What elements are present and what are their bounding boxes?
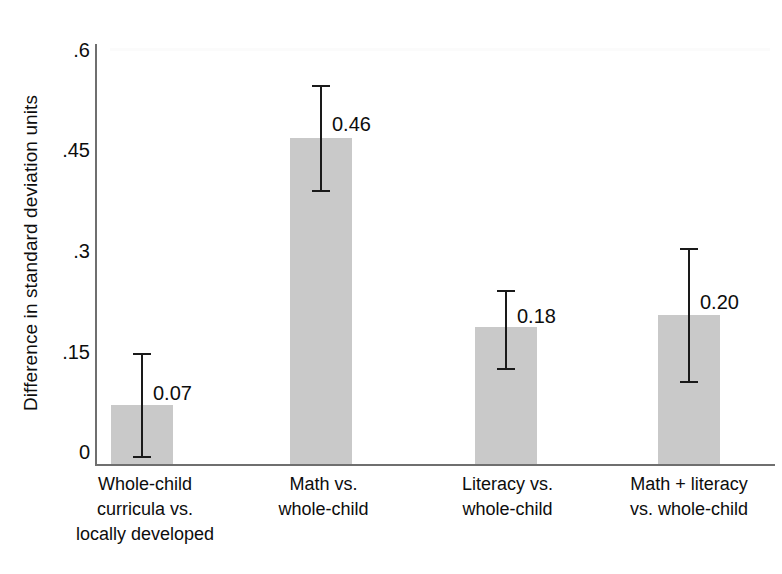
value-label-1: 0.07 [153, 382, 192, 405]
y-tick-label-0: 0 [32, 441, 90, 464]
error-bar-cap-upper-3 [497, 290, 515, 292]
x-category-label-3: Literacy vs. whole-child [420, 472, 595, 522]
error-bar-cap-lower-2 [312, 190, 330, 192]
x-category-label-4: Math + literacy vs. whole-child [600, 472, 778, 522]
error-bar-line-2 [320, 85, 322, 192]
x-category-label-4-line-2: vs. whole-child [600, 497, 778, 522]
error-bar-line-3 [505, 290, 507, 370]
x-category-label-2-line-2: whole-child [236, 497, 411, 522]
error-bar-cap-upper-1 [133, 353, 151, 355]
y-tick-label-0_45: .45 [32, 139, 90, 162]
x-category-label-3-line-1: Literacy vs. [420, 472, 595, 497]
x-category-label-1-line-3: locally developed [50, 522, 240, 547]
x-category-label-4-line-1: Math + literacy [600, 472, 778, 497]
error-bar-line-4 [688, 248, 690, 383]
bar-chart-figure: Difference in standard deviation units .… [0, 0, 782, 574]
error-bar-cap-lower-4 [680, 381, 698, 383]
y-tick-label-0_6: .6 [32, 39, 90, 62]
error-bar-line-1 [141, 353, 143, 458]
x-category-label-2: Math vs. whole-child [236, 472, 411, 522]
error-bar-cap-lower-1 [133, 456, 151, 458]
x-category-label-2-line-1: Math vs. [236, 472, 411, 497]
x-category-label-3-line-2: whole-child [420, 497, 595, 522]
y-tick-label-0_3: .3 [32, 240, 90, 263]
error-bar-cap-upper-4 [680, 248, 698, 250]
x-category-label-1-line-2: curricula vs. [50, 497, 240, 522]
value-label-3: 0.18 [517, 305, 556, 328]
plot-area: 0.07 0.46 0.18 0.20 [97, 44, 775, 464]
error-bar-cap-lower-3 [497, 368, 515, 370]
x-category-label-1-line-1: Whole-child [50, 472, 240, 497]
value-label-4: 0.20 [700, 291, 739, 314]
x-category-label-1: Whole-child curricula vs. locally develo… [50, 472, 240, 547]
y-tick-label-0_15: .15 [32, 341, 90, 364]
value-label-2: 0.46 [332, 113, 371, 136]
x-axis-line [95, 464, 775, 466]
error-bar-cap-upper-2 [312, 85, 330, 87]
